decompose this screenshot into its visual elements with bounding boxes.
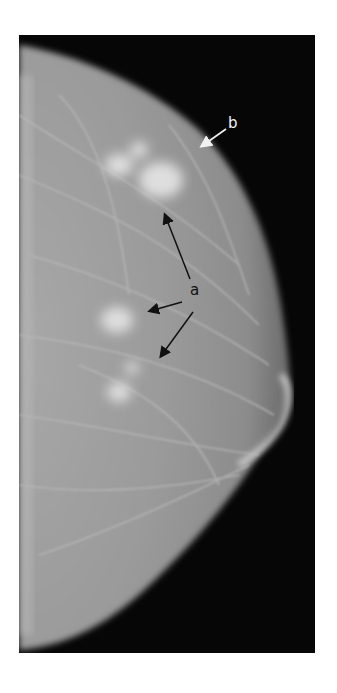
- annotation-label-b: b: [228, 116, 238, 131]
- annotation-label-a: a: [190, 283, 199, 298]
- arrow-b: [202, 129, 226, 146]
- arrow-a-3: [161, 312, 193, 356]
- arrow-a-1: [165, 215, 190, 279]
- annotation-arrows: [0, 0, 337, 693]
- arrow-a-2: [150, 302, 182, 311]
